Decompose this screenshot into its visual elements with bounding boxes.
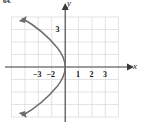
coordinate-plot	[0, 0, 143, 125]
x-tick-label-2: 2	[90, 70, 94, 79]
figure-container: 64.	[0, 0, 143, 125]
y-axis-label: y	[67, 0, 71, 8]
x-tick-label-neg3: −3	[33, 70, 42, 79]
x-tick-label-neg2: −2	[47, 70, 56, 79]
x-tick-label-1: 1	[76, 70, 80, 79]
x-tick-label-3: 3	[103, 70, 107, 79]
y-tick-label-3: 3	[56, 25, 60, 34]
x-axis-label: x	[133, 61, 137, 71]
x-axis	[5, 63, 134, 70]
